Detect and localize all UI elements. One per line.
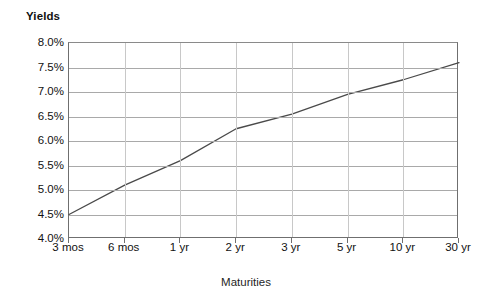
- x-tick-label: 10 yr: [389, 241, 415, 253]
- x-tick-label: 5 yr: [337, 241, 356, 253]
- yield-curve-chart: Yields 4.0%4.5%5.0%5.5%6.0%6.5%7.0%7.5%8…: [0, 0, 492, 306]
- x-tick-label: 3 yr: [281, 241, 300, 253]
- x-tick-label: 3 mos: [52, 241, 83, 253]
- x-tick-label: 1 yr: [170, 241, 189, 253]
- x-axis-title: Maturities: [0, 276, 492, 288]
- x-axis-tick-labels: 3 mos6 mos1 yr2 yr3 yr5 yr10 yr30 yr: [0, 0, 492, 306]
- x-tick-label: 6 mos: [108, 241, 139, 253]
- x-tick-label: 30 yr: [445, 241, 471, 253]
- x-tick-label: 2 yr: [226, 241, 245, 253]
